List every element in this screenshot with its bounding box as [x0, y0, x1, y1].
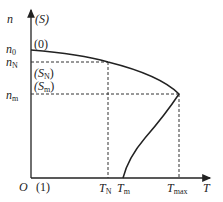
tick-nm: nm	[6, 89, 18, 103]
x-axis-label: T	[203, 182, 210, 194]
torque-speed-diagram	[0, 0, 223, 202]
label-point-0: (0)	[34, 38, 48, 50]
tick-nN: nN	[6, 56, 18, 70]
tick-Tmax: Tmax	[167, 182, 187, 196]
origin-alt-label: (1)	[36, 181, 50, 193]
label-point-Sm: (Sm)	[34, 80, 54, 94]
tick-TN: TN	[99, 182, 111, 196]
origin-label: O	[19, 181, 28, 193]
y-axis-label: n	[7, 13, 13, 25]
y-axis-alt-label: (S)	[35, 13, 49, 25]
tick-Tm: Tm	[117, 182, 130, 196]
